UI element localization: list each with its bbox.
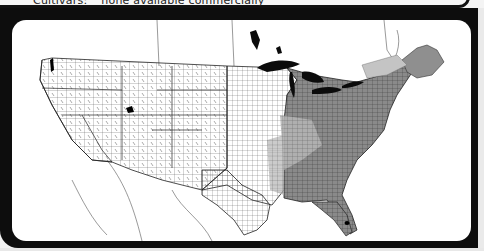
map-svg [12,20,471,241]
distribution-map [12,20,471,241]
cultivars-line: Cultivars:none available commercially [33,0,265,7]
page-edge [478,8,484,251]
maritime-range [402,45,444,78]
western-us [40,58,227,190]
cultivars-value: none available commercially [101,0,264,7]
cultivars-label: Cultivars: [33,0,87,7]
